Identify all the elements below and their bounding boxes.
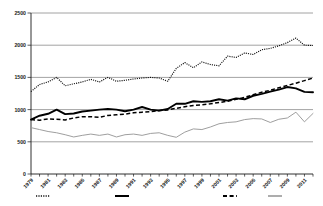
series-thin-gray — [31, 112, 313, 137]
x-tick-label-2007: 2007 — [261, 177, 273, 189]
x-tick-label-1981: 1981 — [39, 177, 51, 189]
x-tick-label-2011: 2011 — [296, 177, 308, 189]
y-tick-labels: 05001000150020002500 — [14, 10, 26, 177]
x-tick-label-2005: 2005 — [244, 177, 256, 189]
data-series-group — [31, 38, 313, 137]
y-tick-label-2000: 2000 — [14, 42, 26, 48]
y-tick-label-1000: 1000 — [14, 107, 26, 113]
x-tick-label-1987: 1987 — [90, 177, 102, 189]
series-thick-solid — [31, 87, 313, 120]
y-tick-label-0: 0 — [23, 171, 26, 177]
x-tick-label-1997: 1997 — [176, 177, 188, 189]
x-tick-label-1991: 1991 — [124, 177, 136, 189]
x-tick-label-1993: 1993 — [142, 177, 154, 189]
y-tick-label-2500: 2500 — [14, 10, 26, 16]
x-tick-label-1983: 1983 — [56, 177, 68, 189]
chart-canvas: 05001000150020002500 1979198119831985198… — [0, 0, 323, 206]
x-tick-label-1979: 1979 — [22, 177, 34, 189]
y-tick-label-500: 500 — [17, 139, 26, 145]
series-dotted — [31, 38, 313, 91]
y-tick-marks — [28, 13, 32, 174]
x-tick-label-1999: 1999 — [193, 177, 205, 189]
x-tick-label-1985: 1985 — [73, 177, 85, 189]
x-tick-label-2009: 2009 — [278, 177, 290, 189]
y-tick-label-1500: 1500 — [14, 74, 26, 80]
x-tick-label-1989: 1989 — [107, 177, 119, 189]
line-chart: 05001000150020002500 1979198119831985198… — [0, 0, 323, 206]
x-tick-label-1995: 1995 — [159, 177, 171, 189]
x-tick-labels: 1979198119831985198719891991199319951997… — [22, 177, 308, 189]
x-tick-label-2003: 2003 — [227, 177, 239, 189]
x-tick-label-2001: 2001 — [210, 177, 222, 189]
